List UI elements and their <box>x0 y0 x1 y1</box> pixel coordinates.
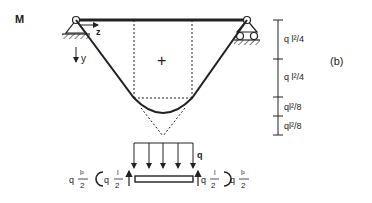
panel-label: (b) <box>330 55 343 67</box>
svg-text:q: q <box>104 175 109 185</box>
right-moment-label: q l² 2 <box>230 169 249 190</box>
free-body-segment <box>135 176 193 182</box>
moment-title: M <box>15 13 24 25</box>
y-axis-label: y <box>81 53 86 64</box>
svg-text:ql²/8: ql²/8 <box>284 121 302 131</box>
distributed-load-icon <box>134 143 193 168</box>
svg-text:q l²/4: q l²/4 <box>284 72 304 82</box>
svg-text:q: q <box>230 175 235 185</box>
dimension-line <box>273 20 283 135</box>
load-label: q <box>197 150 203 160</box>
svg-text:q: q <box>201 175 206 185</box>
left-shear-label: q l 2 <box>104 169 123 190</box>
z-axis-label: z <box>96 27 101 37</box>
svg-text:l: l <box>214 169 216 176</box>
svg-text:l²: l² <box>80 169 85 176</box>
dimension-label-2: q l²/4 <box>284 72 304 82</box>
dimension-label-1: q l²/4 <box>284 34 304 44</box>
svg-text:ql²/8: ql²/8 <box>284 102 302 112</box>
svg-text:2: 2 <box>115 181 120 190</box>
dimension-label-3: ql²/8 <box>284 102 302 112</box>
svg-text:q: q <box>69 175 74 185</box>
dimension-label-4: ql²/8 <box>284 121 302 131</box>
bending-moment-diagram: M z y + <box>0 0 372 203</box>
svg-text:q l²/4: q l²/4 <box>284 34 304 44</box>
left-moment-arrow-icon <box>96 172 103 186</box>
svg-text:l²: l² <box>241 169 246 176</box>
left-moment-label: q l² 2 <box>69 169 88 190</box>
right-shear-label: q l 2 <box>201 169 219 190</box>
svg-text:2: 2 <box>211 181 216 190</box>
svg-text:2: 2 <box>241 181 246 190</box>
construction-lines <box>134 20 192 136</box>
svg-text:2: 2 <box>80 181 85 190</box>
svg-text:l: l <box>117 169 119 176</box>
positive-region-sign: + <box>157 52 166 69</box>
